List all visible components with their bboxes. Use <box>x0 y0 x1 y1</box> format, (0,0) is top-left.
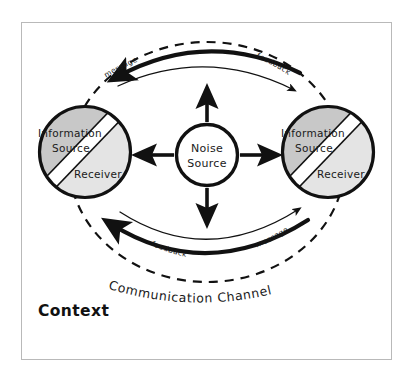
left-party-source-label-line1: Information <box>38 127 102 139</box>
right-party-source-label-line1: Information <box>281 127 345 139</box>
context-label: Context <box>38 302 109 320</box>
label-bottom-message: message <box>254 225 290 250</box>
left-party-source-label-line2: Source <box>52 142 90 154</box>
node-noise-source[interactable]: Noise Source <box>177 125 238 186</box>
label-bottom-feedback: feedback <box>150 239 188 259</box>
node-left-party[interactable]: Information Source Receiver <box>26 90 134 208</box>
right-party-source-label-line2: Source <box>295 142 333 154</box>
diagram-canvas: Information Source Receiver Information … <box>0 0 413 376</box>
noise-source-label-line1: Noise <box>191 142 223 155</box>
right-party-receiver-label: Receiver <box>317 168 365 180</box>
communication-channel-label: Communication Channel <box>107 277 273 305</box>
noise-source-label-line2: Source <box>187 157 227 170</box>
arc-top-feedback <box>118 67 294 90</box>
left-party-receiver-label: Receiver <box>74 168 122 180</box>
noise-source-circle <box>177 125 238 186</box>
node-right-party[interactable]: Information Source Receiver <box>269 90 377 208</box>
